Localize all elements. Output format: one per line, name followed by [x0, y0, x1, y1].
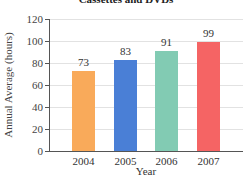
plot-area: 020406080100120732004832005912006992007: [49, 19, 243, 151]
x-axis-line: [49, 151, 243, 152]
bar-2007: [197, 42, 220, 151]
y-tick-label: 60: [32, 79, 43, 91]
bar-2005: [114, 60, 137, 151]
gridline: [50, 19, 243, 20]
y-tick-label: 100: [27, 35, 44, 47]
y-tick-label: 120: [27, 13, 44, 25]
y-tick: [45, 85, 49, 86]
y-axis-label: Annual Average (hours): [2, 32, 14, 137]
y-tick: [45, 107, 49, 108]
bar-value-label: 91: [147, 36, 187, 48]
y-tick-label: 40: [32, 101, 43, 113]
y-tick-label: 20: [32, 123, 43, 135]
bar-value-label: 83: [106, 45, 146, 57]
bar-2004: [72, 71, 95, 151]
y-tick-label: 0: [38, 145, 44, 157]
y-tick: [45, 63, 49, 64]
y-tick: [45, 41, 49, 42]
y-tick: [45, 19, 49, 20]
bar-value-label: 73: [64, 56, 104, 68]
bar-value-label: 99: [189, 27, 229, 39]
bar-2006: [155, 51, 178, 151]
y-tick: [45, 151, 49, 152]
chart-title: Cassettes and DVDs: [0, 0, 252, 5]
y-tick: [45, 129, 49, 130]
x-axis-label: Year: [49, 165, 243, 177]
y-tick-label: 80: [32, 57, 43, 69]
